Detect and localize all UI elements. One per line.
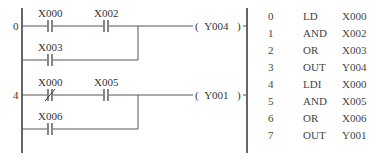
rung-step-number: 0: [13, 20, 19, 32]
contact-label: X003: [38, 41, 62, 53]
instruction-opcode: OR: [303, 112, 318, 124]
instruction-step: 5: [268, 95, 282, 107]
instruction-opcode: AND: [303, 27, 327, 39]
contact-label: X005: [94, 76, 118, 88]
instruction-step: 2: [268, 44, 282, 56]
contact-label: X000: [38, 7, 62, 19]
instruction-step: 7: [268, 129, 282, 141]
coil-close-bracket: ): [237, 20, 241, 32]
instruction-opcode: LD: [303, 10, 318, 22]
instruction-opcode: LDI: [303, 78, 321, 90]
contact-label: X006: [38, 110, 62, 122]
instruction-operand: X005: [342, 95, 366, 107]
coil-open-bracket: (: [195, 20, 199, 32]
instruction-opcode: OR: [303, 44, 318, 56]
instruction-opcode: OUT: [303, 129, 326, 141]
instruction-operand: X000: [342, 10, 366, 22]
contact-label: X002: [94, 7, 118, 19]
coil-close-bracket: ): [237, 89, 241, 101]
instruction-step: 6: [268, 112, 282, 124]
coil-label: Y001: [204, 89, 228, 101]
instruction-operand: X006: [342, 112, 366, 124]
coil-label: Y004: [204, 20, 228, 32]
rung-step-number: 4: [13, 89, 19, 101]
output-coil: ( Y004 ): [193, 20, 243, 32]
ladder-diagram: 0 X000 X002 X003 ( Y004 ) 4 X000 X005 X0…: [0, 0, 260, 161]
coil-open-bracket: (: [195, 89, 199, 101]
instruction-operand: Y001: [342, 129, 366, 141]
instruction-opcode: AND: [303, 95, 327, 107]
instruction-operand: Y004: [342, 61, 366, 73]
instruction-step: 4: [268, 78, 282, 90]
instruction-step: 0: [268, 10, 282, 22]
output-coil: ( Y001 ): [193, 89, 243, 101]
instruction-operand: X000: [342, 78, 366, 90]
contact-label: X000: [38, 76, 62, 88]
instruction-step: 3: [268, 61, 282, 73]
instruction-operand: X003: [342, 44, 366, 56]
instruction-operand: X002: [342, 27, 366, 39]
instruction-opcode: OUT: [303, 61, 326, 73]
instruction-step: 1: [268, 27, 282, 39]
